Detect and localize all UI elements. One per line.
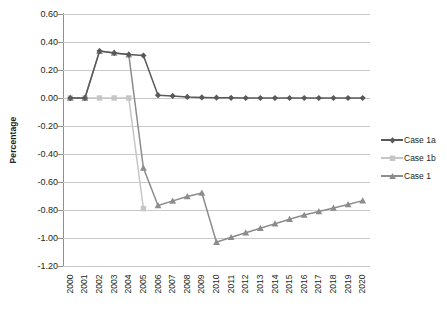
x-tick-label: 2010 xyxy=(210,266,224,306)
x-tick-label-text: 2013 xyxy=(255,275,265,294)
x-tick-label-text: 2004 xyxy=(124,275,134,294)
series-layer xyxy=(63,14,370,266)
x-tick-label: 2009 xyxy=(195,266,209,306)
series-line xyxy=(70,51,362,98)
legend-marker-icon xyxy=(381,134,403,146)
data-point-marker xyxy=(257,95,263,101)
x-tick-label-text: 2000 xyxy=(65,275,75,294)
x-tick-label: 2018 xyxy=(326,266,340,306)
x-tick-label: 2020 xyxy=(356,266,370,306)
data-point-marker xyxy=(155,92,161,98)
data-point-marker xyxy=(243,95,249,101)
legend-symbol-diamond-icon xyxy=(388,136,397,145)
legend-item-case-1b[interactable]: Case 1b xyxy=(381,149,447,167)
series-case-1 xyxy=(67,48,366,245)
x-tick-label-text: 2014 xyxy=(270,275,280,294)
x-tick-label-text: 2018 xyxy=(328,275,338,294)
data-point-marker xyxy=(184,94,190,100)
x-tick-label-text: 2015 xyxy=(285,275,295,294)
x-tick-label: 2001 xyxy=(78,266,92,306)
x-tick-label-text: 2010 xyxy=(212,275,222,294)
x-tick-label-text: 2005 xyxy=(138,275,148,294)
chart-legend: Case 1aCase 1bCase 1 xyxy=(381,131,447,185)
y-tick-label: 0.60 xyxy=(24,9,58,19)
data-point-marker xyxy=(359,197,366,203)
y-tick-label: -1.00 xyxy=(24,233,58,243)
legend-marker-icon xyxy=(381,170,403,182)
plot-area xyxy=(63,14,370,266)
x-axis-tick-labels: 2000200120022003200420052006200720082009… xyxy=(63,266,370,309)
x-tick-label: 2017 xyxy=(312,266,326,306)
data-point-marker xyxy=(389,173,396,179)
legend-symbol-square-icon xyxy=(388,154,397,163)
data-point-marker xyxy=(330,95,336,101)
data-point-marker xyxy=(360,95,366,101)
data-point-marker xyxy=(199,94,205,100)
y-tick-label: 0.40 xyxy=(24,37,58,47)
x-tick-label-text: 2006 xyxy=(153,275,163,294)
data-point-marker xyxy=(111,95,116,100)
series-case-1b xyxy=(68,95,146,211)
x-tick-label-text: 2002 xyxy=(95,275,105,294)
data-point-marker xyxy=(126,95,131,100)
legend-marker-icon xyxy=(381,152,403,164)
data-point-marker xyxy=(213,95,219,101)
data-point-marker xyxy=(170,93,176,99)
data-point-marker xyxy=(390,156,395,161)
x-tick-label: 2016 xyxy=(297,266,311,306)
data-point-marker xyxy=(316,95,322,101)
x-tick-label: 2003 xyxy=(107,266,121,306)
x-tick-label-text: 2003 xyxy=(109,275,119,294)
x-tick-label-text: 2020 xyxy=(358,275,368,294)
legend-label: Case 1b xyxy=(404,153,436,163)
x-tick-label: 2015 xyxy=(283,266,297,306)
data-point-marker xyxy=(140,165,147,171)
x-tick-label-text: 2001 xyxy=(80,275,90,294)
series-line xyxy=(70,98,143,209)
data-point-marker xyxy=(228,95,234,101)
data-point-marker xyxy=(272,95,278,101)
x-tick-label: 2004 xyxy=(122,266,136,306)
data-point-marker xyxy=(97,95,102,100)
x-tick-label: 2008 xyxy=(180,266,194,306)
data-point-marker xyxy=(140,52,146,58)
y-tick-label: -0.20 xyxy=(24,121,58,131)
legend-label: Case 1a xyxy=(404,135,436,145)
series-case-1a xyxy=(67,48,366,101)
y-axis-title-label: Percentage xyxy=(8,117,18,164)
legend-symbol-triangle-icon xyxy=(388,172,397,181)
x-tick-label: 2014 xyxy=(268,266,282,306)
x-tick-label-text: 2008 xyxy=(182,275,192,294)
data-point-marker xyxy=(345,95,351,101)
x-tick-label: 2005 xyxy=(136,266,150,306)
data-point-marker xyxy=(301,95,307,101)
line-chart: Percentage 0.600.400.200.00-0.20-0.40-0.… xyxy=(0,0,447,309)
x-tick-label: 2007 xyxy=(166,266,180,306)
y-axis-title: Percentage xyxy=(2,0,24,280)
x-tick-label: 2000 xyxy=(63,266,77,306)
x-tick-label-text: 2019 xyxy=(343,275,353,294)
y-axis-tick-labels: 0.600.400.200.00-0.20-0.40-0.60-0.80-1.0… xyxy=(24,0,58,309)
x-tick-label-text: 2009 xyxy=(197,275,207,294)
data-point-marker xyxy=(389,137,395,143)
x-tick-label-text: 2012 xyxy=(241,275,251,294)
x-tick-label: 2019 xyxy=(341,266,355,306)
x-tick-label: 2013 xyxy=(253,266,267,306)
data-point-marker xyxy=(141,206,146,211)
y-tick-label: -1.20 xyxy=(24,261,58,271)
x-tick-label: 2011 xyxy=(224,266,238,306)
x-tick-label-text: 2007 xyxy=(168,275,178,294)
y-tick-label: 0.20 xyxy=(24,65,58,75)
y-tick-label: -0.80 xyxy=(24,205,58,215)
legend-item-case-1a[interactable]: Case 1a xyxy=(381,131,447,149)
x-tick-label-text: 2011 xyxy=(226,275,236,293)
x-tick-label: 2012 xyxy=(239,266,253,306)
legend-label: Case 1 xyxy=(404,171,431,181)
x-tick-label-text: 2017 xyxy=(314,275,324,294)
y-tick-label: -0.40 xyxy=(24,149,58,159)
x-tick-label: 2006 xyxy=(151,266,165,306)
x-tick-label-text: 2016 xyxy=(299,275,309,294)
y-tick-label: -0.60 xyxy=(24,177,58,187)
legend-item-case-1[interactable]: Case 1 xyxy=(381,167,447,185)
y-tick-label: 0.00 xyxy=(24,93,58,103)
